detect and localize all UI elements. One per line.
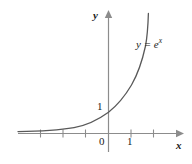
exponential-curve bbox=[18, 14, 148, 132]
y-tick-label-one: 1 bbox=[97, 101, 103, 112]
x-axis-label: x bbox=[176, 140, 182, 151]
curve-equation-base: y = e bbox=[136, 38, 159, 50]
y-axis-label: y bbox=[93, 10, 98, 21]
exponential-function-figure: y x 1 0 1 y = ex bbox=[0, 0, 192, 164]
x-axis-arrowhead bbox=[176, 130, 184, 137]
y-axis-arrowhead bbox=[105, 10, 112, 18]
x-tick-label-one: 1 bbox=[127, 136, 133, 147]
origin-label: 0 bbox=[99, 136, 105, 147]
curve-equation-label: y = ex bbox=[136, 39, 162, 50]
curve-equation-exponent: x bbox=[159, 36, 162, 45]
graph-canvas bbox=[0, 0, 192, 164]
